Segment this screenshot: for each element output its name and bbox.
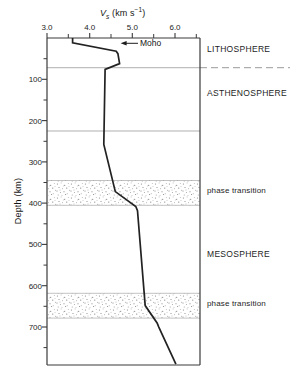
plot-area <box>0 0 294 380</box>
y-major-ticks <box>42 79 47 327</box>
phase-transition-band-lower <box>48 293 200 318</box>
velocity-depth-figure: Vs (km s−1) 3.0 4.0 5.0 6.0 100 200 300 … <box>0 0 294 380</box>
moho-arrow-icon <box>121 41 138 45</box>
phase-transition-band-upper <box>48 181 200 206</box>
